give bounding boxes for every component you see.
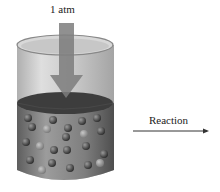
pressure-label: 1 atm: [50, 3, 75, 15]
reaction-label: Reaction: [149, 114, 188, 126]
reaction-diagram: [0, 0, 220, 192]
reaction-arrow-icon: [133, 129, 209, 134]
